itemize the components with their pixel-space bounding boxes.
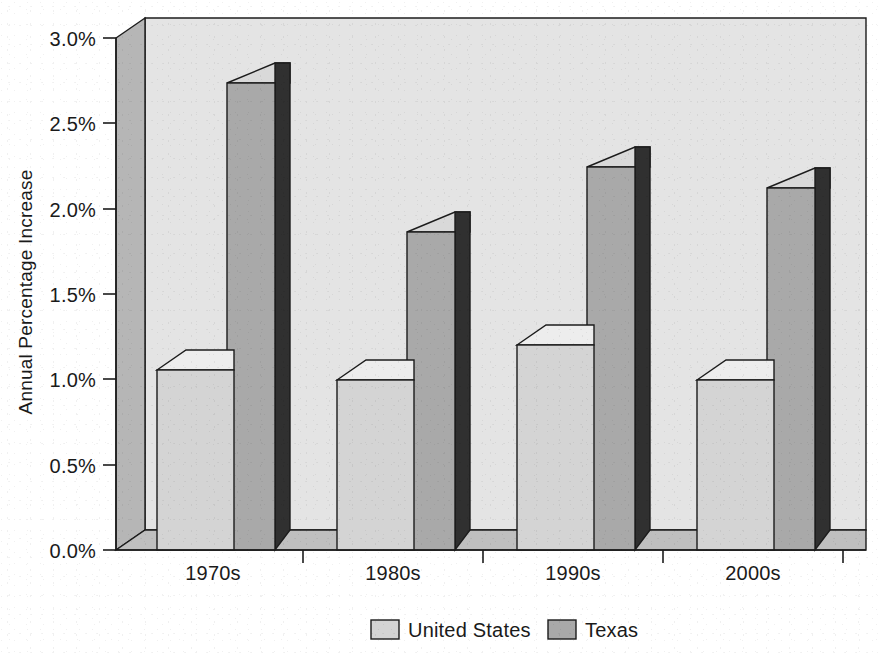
- y-tick-label: 0.0%: [50, 540, 96, 562]
- bar-united-states-1980s: [337, 360, 414, 550]
- legend-item-texas: Texas: [548, 619, 638, 641]
- bar-united-states-1990s: [517, 325, 594, 550]
- bar-texas-2000s: [767, 168, 830, 550]
- x-category-label: 1990s: [545, 562, 601, 584]
- bar-united-states-2000s: [697, 360, 774, 550]
- plot-side-wall: [116, 18, 145, 550]
- bar-united-states-1970s: [157, 350, 234, 550]
- y-tick-label: 2.5%: [50, 113, 96, 135]
- y-axis-ticks: [103, 38, 116, 550]
- x-category-label: 1980s: [365, 562, 421, 584]
- legend-item-united-states: United States: [371, 619, 531, 641]
- legend-label: United States: [408, 619, 531, 641]
- y-tick-label: 3.0%: [50, 28, 96, 50]
- y-tick-label: 0.5%: [50, 455, 96, 477]
- legend-swatch-icon: [371, 620, 399, 639]
- bar-texas-1970s: [227, 63, 290, 550]
- y-tick-label: 1.0%: [50, 369, 96, 391]
- y-tick-label: 1.5%: [50, 284, 96, 306]
- x-category-label: 1970s: [185, 562, 241, 584]
- bar-chart: 3.0% 2.5% 2.0% 1.5% 1.0% 0.5% 0.0% Annua…: [0, 0, 878, 653]
- bar-texas-1980s: [407, 212, 470, 550]
- x-category-label: 2000s: [725, 562, 781, 584]
- y-tick-label: 2.0%: [50, 199, 96, 221]
- legend: United States Texas: [371, 619, 638, 641]
- y-axis-title: Annual Percentage Increase: [15, 170, 36, 415]
- legend-label: Texas: [585, 619, 638, 641]
- legend-swatch-icon: [548, 620, 576, 639]
- bar-texas-1990s: [587, 147, 650, 550]
- chart-canvas: 3.0% 2.5% 2.0% 1.5% 1.0% 0.5% 0.0% Annua…: [0, 0, 878, 653]
